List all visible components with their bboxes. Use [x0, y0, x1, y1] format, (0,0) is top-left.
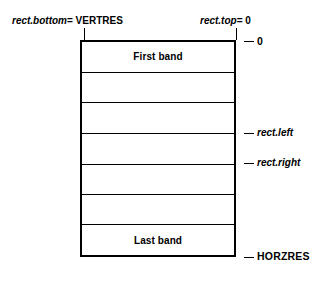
- band-label: Last band: [134, 235, 182, 246]
- band-label: First band: [133, 51, 182, 62]
- label-rect-bottom-assignment: = VERTRES: [67, 15, 123, 26]
- label-rect-bottom-variable: rect.bottom: [12, 15, 67, 26]
- tick-mark-horzres: [244, 257, 254, 258]
- band-row: [82, 134, 234, 165]
- band-row: [82, 165, 234, 195]
- label-horzres: HORZRES: [257, 251, 310, 262]
- label-rect-bottom: rect.bottom= VERTRES: [12, 16, 123, 26]
- band-row: [82, 73, 234, 103]
- label-rect-top-assignment: = 0: [237, 15, 251, 26]
- tick-mark-rect-right: [244, 163, 254, 164]
- band-row: First band: [82, 42, 234, 73]
- label-rect-left: rect.left: [257, 128, 293, 138]
- tick-mark-zero: [244, 41, 254, 42]
- leader-line-rect-bottom: [84, 28, 85, 40]
- label-rect-right: rect.right: [257, 158, 300, 168]
- label-rect-top-variable: rect.top: [200, 15, 237, 26]
- band-row: Last band: [82, 225, 234, 255]
- tick-mark-rect-left: [244, 133, 254, 134]
- band-row: [82, 103, 234, 135]
- banding-diagram: rect.bottom= VERTRES rect.top= 0 First b…: [0, 0, 327, 282]
- label-zero: 0: [257, 36, 263, 47]
- band-row: [82, 195, 234, 225]
- label-rect-top: rect.top= 0: [200, 16, 251, 26]
- band-rectangle: First band Last band: [80, 40, 236, 257]
- leader-line-rect-top: [236, 28, 237, 40]
